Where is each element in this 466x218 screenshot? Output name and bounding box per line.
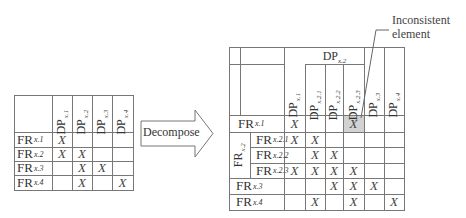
annotation-line1: Inconsistent xyxy=(392,13,450,27)
annotation-line2: element xyxy=(392,27,430,41)
